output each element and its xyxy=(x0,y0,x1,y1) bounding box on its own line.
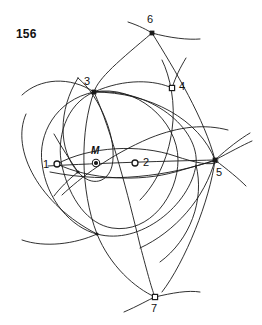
construction-arc xyxy=(60,91,178,229)
intersection-node xyxy=(76,170,79,173)
point-marker-m-core xyxy=(95,162,98,165)
point-label-2: 2 xyxy=(143,157,149,168)
point-label-7: 7 xyxy=(151,303,157,314)
construction-arc xyxy=(160,165,199,262)
point-marker-4 xyxy=(169,85,174,90)
point-marker-3 xyxy=(92,90,97,95)
construction-arc xyxy=(94,92,215,160)
point-marker-group xyxy=(54,31,217,300)
point-marker-2 xyxy=(132,160,138,166)
point-marker-1 xyxy=(54,161,60,167)
construction-arc xyxy=(140,60,173,200)
construction-arc xyxy=(140,160,215,248)
point-label-6: 6 xyxy=(147,14,153,25)
intersection-node xyxy=(95,232,98,235)
geometric-construction-figure: 1M234567 156 xyxy=(0,0,262,325)
construction-arc xyxy=(215,133,250,160)
point-label-1: 1 xyxy=(43,159,49,170)
point-marker-5 xyxy=(213,158,218,163)
construction-arc xyxy=(84,92,155,297)
construction-arc xyxy=(152,33,215,160)
construction-arc xyxy=(94,92,155,297)
figure-number: 156 xyxy=(16,27,37,41)
point-label-5: 5 xyxy=(216,167,222,178)
point-label-4: 4 xyxy=(179,81,185,92)
point-marker-6 xyxy=(150,31,155,36)
construction-arc xyxy=(162,160,215,292)
construction-arcs-canvas xyxy=(0,0,262,325)
construction-arc xyxy=(22,234,97,244)
point-label-m: M xyxy=(91,146,99,156)
construction-arc xyxy=(152,33,200,39)
point-label-3: 3 xyxy=(84,76,90,87)
point-marker-7 xyxy=(152,294,157,299)
